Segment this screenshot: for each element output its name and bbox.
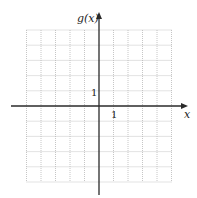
y-tick-label: 1	[91, 87, 97, 98]
coordinate-grid: g(x) x 1 1	[0, 0, 197, 198]
x-tick-label: 1	[111, 109, 117, 120]
y-axis-label: g(x)	[77, 12, 99, 25]
x-axis-label: x	[184, 108, 191, 121]
